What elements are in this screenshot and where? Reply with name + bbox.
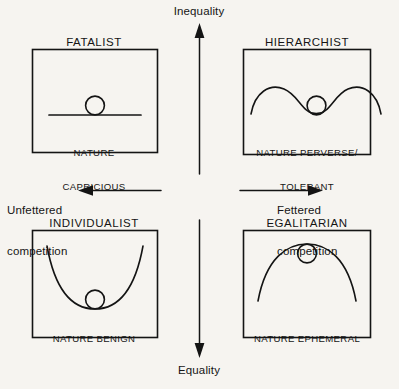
- unfettered-competition-axis-label: Unfettered competition: [7, 177, 127, 286]
- fettered-competition-axis-label: Fettered competition: [277, 177, 397, 286]
- myths-of-nature-diagram: FATALIST HIERARCHIST INDIVIDUALIST EGALI…: [0, 0, 399, 389]
- equality-axis-label: Equality: [139, 364, 259, 378]
- unfettered-label-line-2: competition: [7, 245, 127, 259]
- unfettered-label-line-1: Unfettered: [7, 204, 127, 218]
- fettered-label-line-1: Fettered: [277, 204, 397, 218]
- individualist-caption-line-1: NATURE BENIGN: [19, 333, 169, 344]
- fettered-label-line-2: competition: [277, 245, 397, 259]
- individualist-nature-caption: NATURE BENIGN: [19, 310, 169, 367]
- equality-arrowhead-down-icon: [195, 343, 205, 358]
- fatalist-ball: [86, 96, 105, 115]
- individualist-ball: [86, 290, 105, 309]
- inequality-arrowhead-up-icon: [195, 23, 205, 38]
- egalitarian-caption-line-1: NATURE EPHEMERAL: [232, 333, 382, 344]
- hierarchist-caption-line-1: NATURE PERVERSE/: [232, 147, 382, 158]
- egalitarian-nature-caption: NATURE EPHEMERAL: [232, 310, 382, 367]
- hierarchist-ball: [307, 96, 326, 115]
- fatalist-title: FATALIST: [14, 36, 174, 50]
- inequality-axis-label: Inequality: [139, 5, 259, 19]
- fatalist-caption-line-1: NATURE: [19, 147, 169, 158]
- hierarchist-landscape-curve: [251, 87, 381, 114]
- hierarchist-title: HIERARCHIST: [227, 36, 387, 50]
